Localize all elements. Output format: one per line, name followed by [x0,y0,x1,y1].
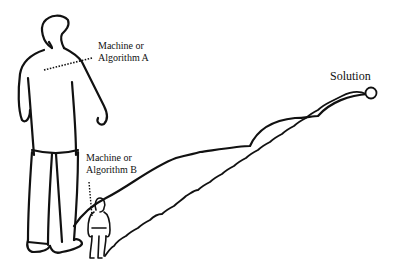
label-solution: Solution [330,70,371,82]
label-machine-a-line2: Algorithm A [98,52,149,64]
diagram-svg [0,0,398,274]
pointer-line-b [89,182,92,216]
label-machine-b: Machine or Algorithm B [86,152,137,176]
label-machine-b-line1: Machine or [86,152,137,164]
large-man-figure [19,16,107,253]
solution-marker [366,88,377,99]
label-machine-b-line2: Algorithm B [86,164,137,176]
label-machine-a: Machine or Algorithm A [98,40,149,64]
label-machine-a-line1: Machine or [98,40,149,52]
